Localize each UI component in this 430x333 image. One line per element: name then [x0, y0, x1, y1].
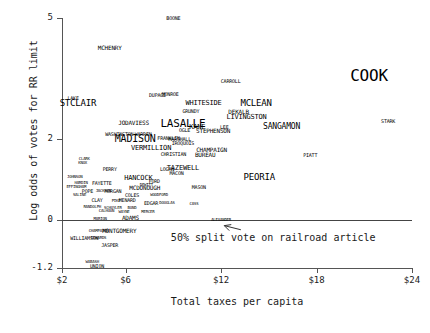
scatter-plot: Log odds of votes for RR limit Total tax…: [0, 0, 430, 333]
annotation-arrow: [0, 0, 430, 333]
annotation-label: 50% split vote on railroad article: [171, 232, 376, 243]
